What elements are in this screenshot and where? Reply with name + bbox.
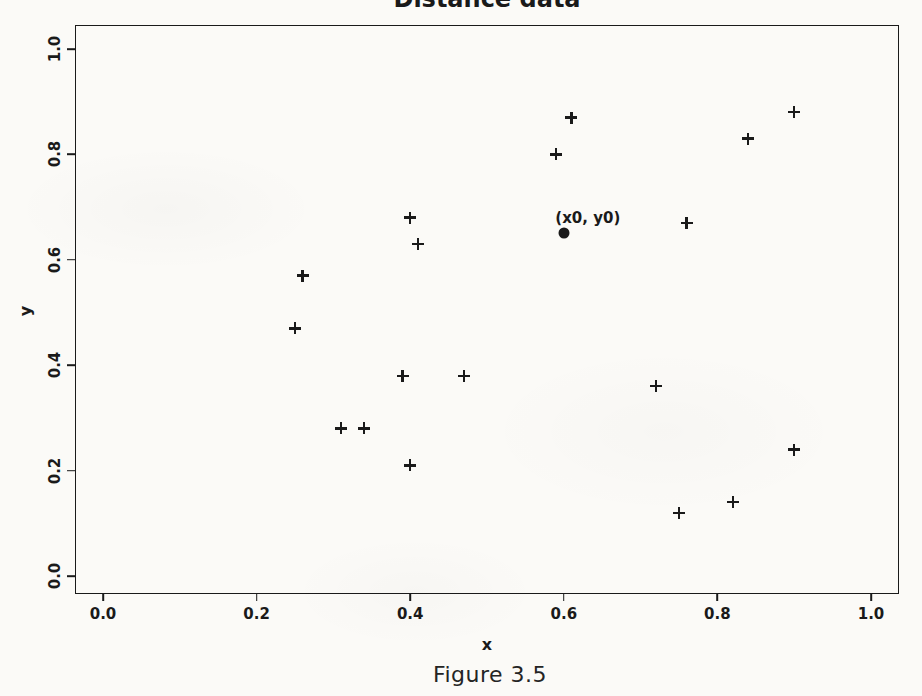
y-tick xyxy=(67,48,76,50)
data-point-plus xyxy=(404,212,416,224)
data-point-plus xyxy=(742,133,754,145)
data-point-plus xyxy=(673,507,685,519)
y-tick xyxy=(67,364,76,366)
y-tick-label: 1.0 xyxy=(46,36,64,63)
highlight-point-dot xyxy=(558,228,569,239)
data-point-plus xyxy=(458,370,470,382)
data-point-plus xyxy=(404,459,416,471)
data-point-plus xyxy=(289,322,301,334)
highlight-point-label: (x0, y0) xyxy=(555,209,620,227)
x-tick-label: 1.0 xyxy=(858,605,885,623)
y-tick-label: 0.8 xyxy=(46,141,64,168)
data-point-plus xyxy=(297,270,309,282)
x-tick xyxy=(717,593,719,601)
data-point-plus xyxy=(358,422,370,434)
y-tick-label: 0.0 xyxy=(46,563,64,590)
x-tick xyxy=(563,593,565,601)
y-tick xyxy=(67,470,76,472)
y-tick-label: 0.6 xyxy=(46,247,64,274)
data-point-plus xyxy=(788,106,800,118)
data-point-plus xyxy=(788,444,800,456)
x-tick xyxy=(102,593,104,601)
data-point-plus xyxy=(335,422,347,434)
chart-title: Distance data xyxy=(393,0,580,11)
x-axis-label: x xyxy=(482,635,492,654)
y-tick-label: 0.2 xyxy=(46,457,64,484)
y-tick-label: 0.4 xyxy=(46,352,64,379)
plot-area: (x0, y0)0.00.20.40.60.81.00.00.20.40.60.… xyxy=(75,25,899,594)
x-tick xyxy=(256,593,258,601)
x-tick-label: 0.0 xyxy=(90,605,117,623)
x-tick xyxy=(870,593,872,601)
data-point-plus xyxy=(650,380,662,392)
x-tick xyxy=(409,593,411,601)
y-tick xyxy=(67,575,76,577)
figure-caption: Figure 3.5 xyxy=(433,662,547,687)
x-tick-label: 0.8 xyxy=(704,605,731,623)
data-point-plus xyxy=(727,496,739,508)
y-axis-label: y xyxy=(16,306,35,316)
y-tick xyxy=(67,259,76,261)
data-point-plus xyxy=(397,370,409,382)
scanned-figure-page: Distance data (x0, y0)0.00.20.40.60.81.0… xyxy=(0,0,922,696)
data-point-plus xyxy=(412,238,424,250)
x-tick-label: 0.4 xyxy=(397,605,424,623)
data-point-plus xyxy=(550,148,562,160)
data-point-plus xyxy=(565,112,577,124)
x-tick-label: 0.6 xyxy=(551,605,578,623)
data-point-plus xyxy=(681,217,693,229)
x-tick-label: 0.2 xyxy=(243,605,270,623)
y-tick xyxy=(67,154,76,156)
